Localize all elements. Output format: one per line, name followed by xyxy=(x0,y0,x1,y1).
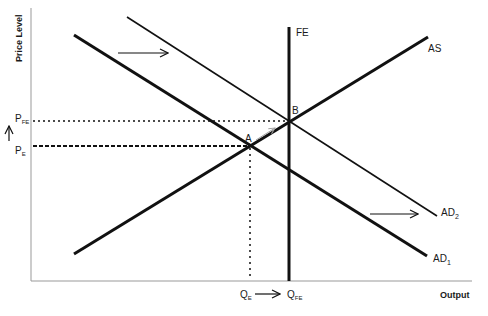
qe-label: QE xyxy=(240,289,252,301)
as-label: AS xyxy=(428,43,442,54)
x-axis-label: Output xyxy=(440,290,470,300)
point-a-label: A xyxy=(245,133,252,144)
ad2-label: AD2 xyxy=(441,207,459,220)
pfe-label: PFE xyxy=(15,113,29,125)
ad1-label: AD1 xyxy=(433,253,451,266)
qfe-label: QFE xyxy=(287,289,302,301)
fe-label: FE xyxy=(296,27,309,38)
ad2-curve xyxy=(127,17,437,216)
point-b-label: B xyxy=(292,105,299,116)
pe-label: PE xyxy=(15,145,26,157)
ad-as-diagram: Price Level Output FE AS AD2 AD1 A B PFE… xyxy=(0,0,488,316)
y-axis-label: Price Level xyxy=(14,14,24,62)
